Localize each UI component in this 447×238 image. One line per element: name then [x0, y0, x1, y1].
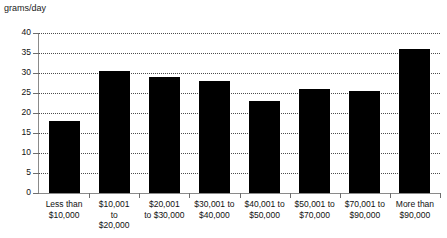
bar	[249, 101, 280, 193]
x-axis-category-label-line: $90,000	[386, 210, 444, 221]
y-axis-tick-label: 25	[5, 88, 31, 97]
x-axis-tick-mark	[89, 193, 90, 198]
y-axis-tick-label: 10	[5, 148, 31, 157]
x-axis-category-label-line: More than	[386, 199, 444, 210]
x-axis-tick-mark	[189, 193, 190, 198]
y-axis-tick-mark	[33, 33, 39, 34]
x-axis-category-label-line: $20,000	[85, 220, 143, 231]
x-axis-tick-mark	[240, 193, 241, 198]
bar	[299, 89, 330, 193]
y-axis-tick-labels: 4035302520151050	[0, 0, 31, 238]
y-axis-tick-mark	[33, 113, 39, 114]
y-axis-tick-label: 20	[5, 108, 31, 117]
x-axis-category-labels: Less than$10,000$10,001to$20,000$20,001t…	[39, 199, 442, 238]
x-axis-tick-mark	[290, 193, 291, 198]
x-axis-category-label: More than$90,000	[386, 199, 444, 220]
y-axis-tick-mark	[33, 193, 39, 194]
y-axis-tick-mark	[33, 73, 39, 74]
bar	[199, 81, 230, 193]
y-axis-tick-mark	[33, 93, 39, 94]
y-axis-tick-label: 40	[5, 28, 31, 37]
bar	[349, 91, 380, 193]
bar-chart: grams/day 4035302520151050 Less than$10,…	[0, 0, 447, 238]
x-axis-tick-mark	[139, 193, 140, 198]
y-axis-tick-label: 0	[5, 188, 31, 197]
y-axis-tick-label: 30	[5, 68, 31, 77]
y-axis-tick-mark	[33, 153, 39, 154]
y-axis-tick-mark	[33, 173, 39, 174]
x-axis-tick-mark	[390, 193, 391, 198]
bar	[399, 49, 430, 193]
bar	[49, 121, 80, 193]
x-axis-tick-mark	[440, 193, 441, 198]
bar	[99, 71, 130, 193]
bar	[149, 77, 180, 193]
x-axis-tick-mark	[340, 193, 341, 198]
y-axis-tick-label: 5	[5, 168, 31, 177]
y-axis-tick-label: 35	[5, 48, 31, 57]
bars-layer	[39, 33, 440, 193]
y-axis-tick-mark	[33, 53, 39, 54]
y-axis-tick-label: 15	[5, 128, 31, 137]
y-axis-tick-mark	[33, 133, 39, 134]
